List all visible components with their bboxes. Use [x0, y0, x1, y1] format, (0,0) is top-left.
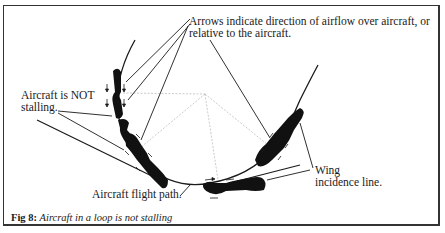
- not-stalling-label: Aircraft is NOT stalling.: [21, 89, 94, 113]
- aircraft-silhouettes: [112, 69, 303, 194]
- leader-lines: [58, 19, 313, 196]
- caption-text: Aircraft in a loop is not stalling: [40, 212, 173, 223]
- aircraft-icon: [125, 133, 168, 188]
- not-stalling-line1: Aircraft is NOT: [21, 89, 94, 101]
- figure-caption: Fig 8: Aircraft in a loop is not stallin…: [11, 212, 172, 223]
- not-stalling-line2: stalling.: [21, 101, 94, 113]
- wing-incidence-line2: incidence line.: [315, 176, 382, 188]
- wing-incidence-line1: Wing: [315, 164, 382, 176]
- aircraft-icon: [112, 69, 123, 119]
- flight-path-label: Aircraft flight path.: [92, 188, 182, 200]
- caption-label: Fig 8:: [11, 212, 37, 223]
- arrows-note-line1: Arrows indicate direction of airflow ove…: [189, 15, 430, 27]
- arrows-note: Arrows indicate direction of airflow ove…: [189, 15, 430, 39]
- arrows-note-line2: relative to the aircraft.: [189, 27, 430, 39]
- wing-incidence-label: Wing incidence line.: [315, 164, 382, 188]
